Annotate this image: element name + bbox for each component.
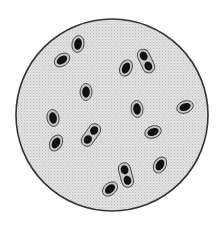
bacterial-cell bbox=[80, 84, 92, 101]
cell-body bbox=[82, 86, 90, 98]
microscope-field-diagram bbox=[0, 0, 223, 230]
